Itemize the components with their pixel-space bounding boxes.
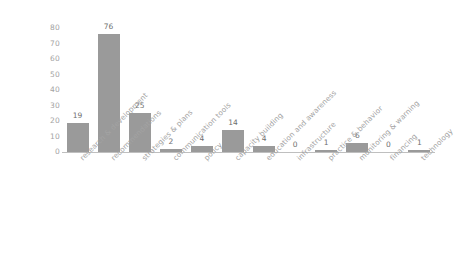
bar-slot: 14 xyxy=(218,28,248,152)
bar-value-label: 19 xyxy=(63,112,93,120)
y-axis-tick-label: 60 xyxy=(38,55,60,63)
bar-value-label: 14 xyxy=(218,119,248,127)
y-axis-tick-label: 20 xyxy=(38,117,60,125)
y-axis-tick-label: 0 xyxy=(38,148,60,156)
y-axis-tick-label: 30 xyxy=(38,102,60,110)
y-axis-tick-label: 50 xyxy=(38,71,60,79)
y-axis-tick-label: 10 xyxy=(38,133,60,141)
bar-value-label: 76 xyxy=(94,23,124,31)
y-axis-tick-label: 80 xyxy=(38,24,60,32)
y-axis-tick-label: 40 xyxy=(38,86,60,94)
y-axis-tick-label: 70 xyxy=(38,40,60,48)
bar-slot: 19 xyxy=(63,28,93,152)
x-axis-category-labels: research & developmentrecommendationsstr… xyxy=(62,156,448,253)
y-axis: 01020304050607080 xyxy=(38,0,60,253)
